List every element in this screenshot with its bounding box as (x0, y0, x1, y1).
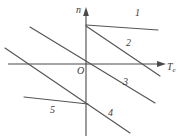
vertical-axis-arrowhead (83, 7, 89, 16)
horizontal-axis-arrowhead (157, 61, 166, 67)
curve-label-3: 3 (123, 77, 128, 87)
characteristic-line-4 (5, 48, 130, 133)
speed-torque-characteristic-figure: n Te O 1 2 3 4 5 (0, 0, 187, 139)
curve-label-4: 4 (108, 108, 113, 118)
origin-label: O (77, 66, 84, 76)
curve-label-1: 1 (135, 8, 140, 18)
curve-label-5: 5 (50, 105, 55, 115)
figure-canvas (0, 0, 187, 139)
characteristic-line-1 (86, 25, 158, 30)
characteristic-line-2 (86, 26, 160, 76)
characteristic-line-3 (30, 27, 155, 103)
axis-label-te-subscript: e (173, 66, 176, 74)
axis-label-n: n (76, 5, 81, 15)
curve-label-2: 2 (126, 38, 131, 48)
axis-label-te: Te (167, 62, 176, 74)
